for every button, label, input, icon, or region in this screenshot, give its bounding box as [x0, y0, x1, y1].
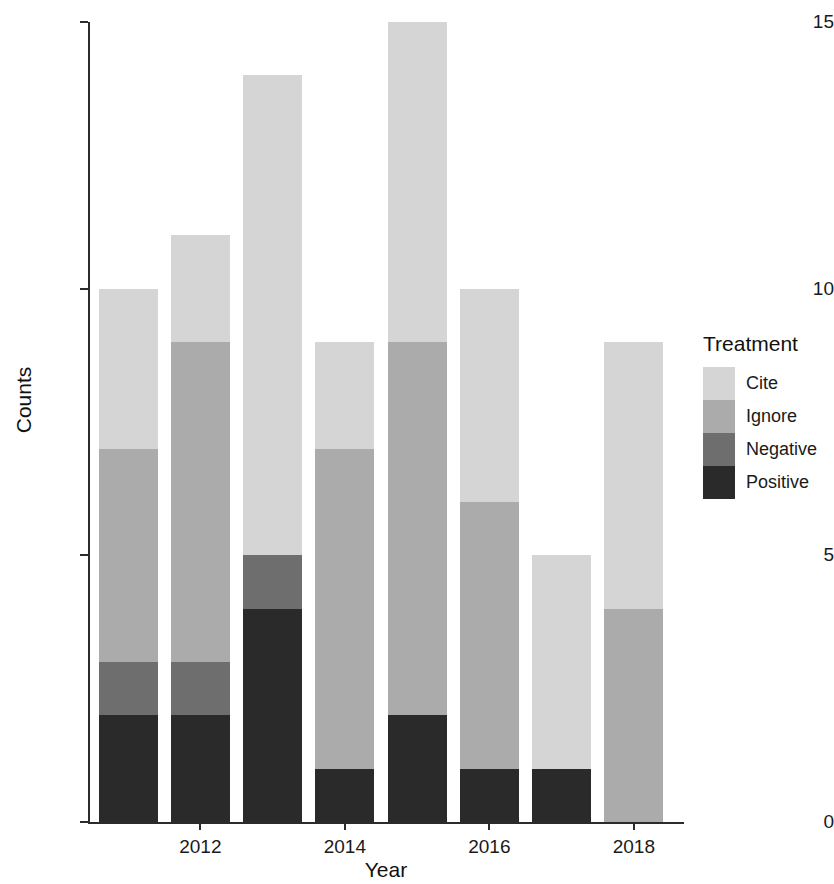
y-tick-mark	[80, 554, 88, 556]
y-tick-label: 5	[788, 545, 834, 564]
y-axis-title: Counts	[12, 367, 36, 434]
bar-segment-cite	[315, 342, 374, 449]
bar-segment-ignore	[388, 342, 447, 715]
bar-segment-ignore	[171, 342, 230, 662]
bar-segment-cite	[604, 342, 663, 609]
legend-swatch-ignore	[703, 400, 735, 433]
bar-segment-ignore	[604, 609, 663, 822]
bar-segment-cite	[532, 555, 591, 768]
bar-segment-cite	[171, 235, 230, 342]
bar-segment-ignore	[460, 502, 519, 769]
x-tick-mark	[344, 822, 346, 830]
legend-title: Treatment	[703, 332, 831, 356]
bar-segment-cite	[243, 75, 302, 555]
legend-swatch-negative	[703, 433, 735, 466]
bar-segment-positive	[243, 609, 302, 822]
x-axis-title: Year	[88, 858, 684, 882]
legend-item-positive[interactable]: Positive	[703, 466, 831, 499]
legend-label: Cite	[746, 373, 778, 394]
bar-segment-cite	[99, 289, 158, 449]
y-tick-mark	[80, 288, 88, 290]
legend-item-cite[interactable]: Cite	[703, 367, 831, 400]
bar-segment-negative	[243, 555, 302, 608]
bar-segment-positive	[315, 769, 374, 822]
legend-item-ignore[interactable]: Ignore	[703, 400, 831, 433]
bar-segment-positive	[388, 715, 447, 822]
legend-label: Positive	[746, 472, 809, 493]
bar-segment-cite	[388, 22, 447, 342]
y-tick-label: 0	[788, 812, 834, 831]
bar-2018	[604, 22, 663, 822]
x-tick-mark	[199, 822, 201, 830]
bar-2016	[460, 22, 519, 822]
plot-area	[92, 22, 670, 822]
y-tick-mark	[80, 21, 88, 23]
x-tick-mark	[633, 822, 635, 830]
x-tick-label: 2012	[160, 836, 240, 858]
legend-swatch-cite	[703, 367, 735, 400]
x-tick-label: 2016	[449, 836, 529, 858]
legend: Treatment CiteIgnoreNegativePositive	[703, 332, 831, 499]
x-tick-label: 2014	[305, 836, 385, 858]
y-tick-mark	[80, 821, 88, 823]
bar-2015	[388, 22, 447, 822]
legend-swatch-positive	[703, 466, 735, 499]
chart-canvas: 051015 2012201420162018 Counts Year Trea…	[0, 0, 834, 884]
y-axis-line	[88, 22, 90, 824]
bar-segment-positive	[532, 769, 591, 822]
bar-2011	[99, 22, 158, 822]
bar-segment-ignore	[99, 449, 158, 662]
bar-2012	[171, 22, 230, 822]
legend-label: Negative	[746, 439, 817, 460]
bar-segment-negative	[171, 662, 230, 715]
y-tick-label: 10	[788, 279, 834, 298]
bar-segment-positive	[171, 715, 230, 822]
x-tick-label: 2018	[594, 836, 674, 858]
bar-segment-ignore	[315, 449, 374, 769]
y-axis-title-wrapper: Counts	[28, 0, 30, 824]
bar-segment-positive	[99, 715, 158, 822]
legend-items: CiteIgnoreNegativePositive	[703, 367, 831, 499]
bar-2013	[243, 22, 302, 822]
bar-segment-positive	[460, 769, 519, 822]
bar-segment-cite	[460, 289, 519, 502]
bar-segment-negative	[99, 662, 158, 715]
bar-2017	[532, 22, 591, 822]
legend-label: Ignore	[746, 406, 797, 427]
x-tick-mark	[488, 822, 490, 830]
bar-2014	[315, 22, 374, 822]
legend-item-negative[interactable]: Negative	[703, 433, 831, 466]
y-tick-label: 15	[788, 12, 834, 31]
x-axis-line	[88, 822, 684, 824]
